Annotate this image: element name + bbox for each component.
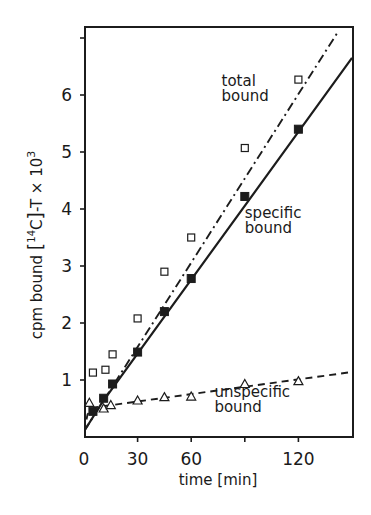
y-axis-title-bracket-close: ] xyxy=(24,212,46,219)
series-annotations: totalboundspecificboundunspecificbound xyxy=(214,72,301,416)
total-bound-point xyxy=(241,145,248,152)
total-bound-label: totalbound xyxy=(222,72,269,105)
total-bound-point xyxy=(188,234,195,241)
x-tick-label: 60 xyxy=(180,449,202,469)
x-tick-label: 0 xyxy=(79,449,90,469)
specific-bound-point xyxy=(100,394,108,402)
y-axis-title-prefix: cpm bound xyxy=(28,250,46,339)
total-bound-point xyxy=(89,369,96,376)
specific-bound-label: specificbound xyxy=(245,204,302,237)
y-axis-title-suffix: -T × 10 xyxy=(28,158,46,212)
y-tick-label: 2 xyxy=(61,313,72,333)
unspecific-bound-point xyxy=(133,396,142,404)
y-tick-label: 6 xyxy=(61,85,72,105)
specific-bound-point xyxy=(187,275,195,283)
y-axis-title-bracket-open: [ xyxy=(24,243,46,250)
plot-frame xyxy=(85,27,353,437)
unspecific-bound-point xyxy=(85,398,94,406)
total-bound-point xyxy=(134,315,141,322)
y-axis-title-element: C xyxy=(28,220,46,230)
specific-bound-point xyxy=(160,308,168,316)
specific-bound-point xyxy=(109,380,117,388)
unspecific-bound-point xyxy=(187,392,196,400)
series-lines xyxy=(84,32,352,431)
specific-bound-point xyxy=(241,192,249,200)
x-tick-label: 120 xyxy=(282,449,314,469)
y-tick-label: 5 xyxy=(61,142,72,162)
y-axis-title-mass-number: 14 xyxy=(26,230,37,243)
specific-bound-point xyxy=(134,348,142,356)
y-axis-title-exponent: 3 xyxy=(25,151,38,158)
total-bound-point xyxy=(295,76,302,83)
y-tick-label: 1 xyxy=(61,370,72,390)
line-chart: 12345603060120 totalboundspecificboundun… xyxy=(0,0,371,515)
total-bound-point xyxy=(102,366,109,373)
y-tick-label: 4 xyxy=(61,199,72,219)
total-bound-line xyxy=(84,32,338,431)
y-tick-label: 3 xyxy=(61,256,72,276)
y-axis-title: cpm bound [14C]-T × 103 xyxy=(24,151,46,340)
specific-bound-line xyxy=(84,58,352,431)
total-bound-point xyxy=(109,351,116,358)
unspecific-bound-label: unspecificbound xyxy=(214,383,290,416)
total-bound-point xyxy=(161,268,168,275)
data-markers xyxy=(85,76,303,415)
x-axis-title: time [min] xyxy=(179,471,258,489)
x-tick-label: 30 xyxy=(127,449,149,469)
specific-bound-point xyxy=(89,407,97,415)
chart-container: 12345603060120 totalboundspecificboundun… xyxy=(0,0,371,515)
specific-bound-point xyxy=(294,125,302,133)
